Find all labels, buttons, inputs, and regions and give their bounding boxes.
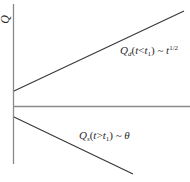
qd-symbol: Q [120, 44, 128, 56]
qs-relation: ~ [116, 129, 122, 141]
qd-curve-label: Qd(t<t1) ~ t1/2 [120, 45, 178, 56]
qs-curve-label: Qs(t>t1) ~ θ [79, 130, 130, 141]
diagram-canvas [0, 0, 190, 182]
qs-scaling-base: θ [124, 129, 129, 141]
q-scaling-diagram: Q Qd(t<t1) ~ t1/2 Qs(t>t1) ~ θ [0, 0, 190, 182]
qd-relation: ~ [157, 44, 163, 56]
qs-curve-line [14, 117, 133, 174]
qs-symbol: Q [79, 129, 87, 141]
y-axis-label: Q [0, 15, 13, 24]
qd-scaling-exponent: 1/2 [169, 44, 178, 52]
